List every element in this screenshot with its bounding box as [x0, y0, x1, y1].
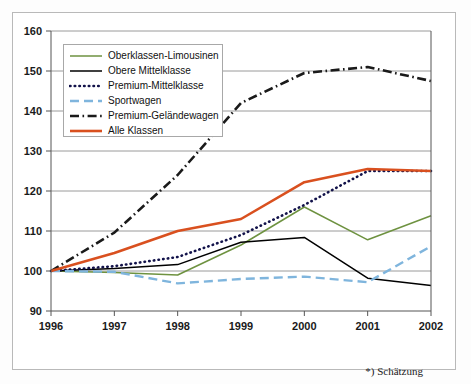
legend-line-swatch [69, 50, 103, 61]
legend-line-swatch [69, 80, 103, 91]
x-axis-tick-label: 1997 [102, 320, 126, 332]
x-tick-marks [51, 311, 431, 316]
legend-item-label: Alle Klassen [108, 125, 163, 136]
legend-item: Sportwagen [64, 93, 222, 108]
legend-line-swatch [69, 95, 103, 106]
legend-item: Oberklassen-Limousinen [64, 48, 222, 63]
footnote-estimate: *) Schätzung [365, 365, 423, 377]
legend-item-label: Oberklassen-Limousinen [108, 50, 219, 61]
y-tick-marks [46, 31, 51, 311]
legend-item: Alle Klassen [64, 123, 222, 138]
x-axis-tick-label: 2001 [355, 320, 379, 332]
chart-legend: Oberklassen-LimousinenObere Mittelklasse… [63, 44, 223, 137]
legend-line-swatch [69, 110, 103, 121]
x-axis-labels: 1996199719981999200020012002 [39, 320, 443, 332]
x-axis-tick-label: 1998 [165, 320, 189, 332]
y-axis-labels: 90100110120130140150160 [24, 25, 42, 317]
x-axis-tick-label: 1996 [39, 320, 63, 332]
y-axis-tick-label: 100 [24, 265, 42, 277]
legend-item-label: Premium-Geländewagen [108, 110, 219, 121]
y-axis-tick-label: 110 [24, 225, 42, 237]
series-line [51, 207, 431, 275]
y-axis-tick-label: 90 [30, 305, 42, 317]
y-axis-tick-label: 140 [24, 105, 42, 117]
chart-figure: 90100110120130140150160 1996199719981999… [0, 0, 471, 384]
y-axis-tick-label: 160 [24, 25, 42, 37]
series-line [51, 246, 431, 283]
x-axis-tick-label: 2000 [292, 320, 316, 332]
legend-line-swatch [69, 125, 103, 136]
x-axis-tick-label: 2002 [419, 320, 443, 332]
legend-item-label: Obere Mittelklasse [108, 65, 191, 76]
y-axis-tick-label: 120 [24, 185, 42, 197]
legend-item: Obere Mittelklasse [64, 63, 222, 78]
series-line [51, 169, 431, 271]
legend-item: Premium-Mittelklasse [64, 78, 222, 93]
legend-item: Premium-Geländewagen [64, 108, 222, 123]
chart-frame: 90100110120130140150160 1996199719981999… [12, 12, 456, 370]
legend-item-label: Premium-Mittelklasse [108, 80, 204, 91]
legend-line-swatch [69, 65, 103, 76]
x-axis-tick-label: 1999 [229, 320, 253, 332]
y-axis-tick-label: 150 [24, 65, 42, 77]
y-axis-tick-label: 130 [24, 145, 42, 157]
legend-item-label: Sportwagen [108, 95, 161, 106]
